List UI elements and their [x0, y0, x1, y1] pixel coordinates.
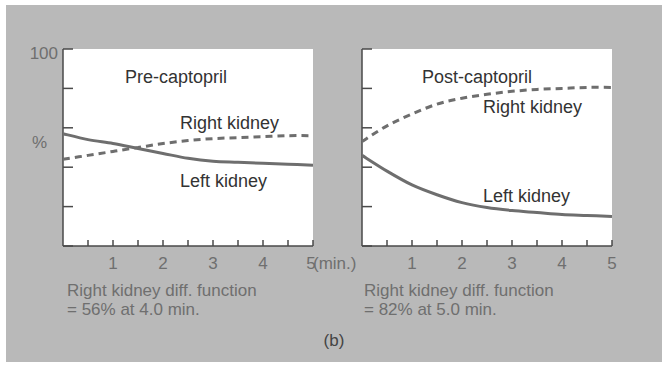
figure-background: Pre-captopril Right kidney Left kidney P… [6, 5, 662, 362]
panel-pre-captopril: Pre-captopril Right kidney Left kidney [63, 49, 313, 246]
left-kidney-label-post: Left kidney [483, 186, 570, 206]
x-tick-label: 1 [108, 254, 117, 273]
x-tick-label: 5 [607, 254, 616, 273]
figure-label: (b) [324, 331, 345, 350]
x-tick-label: 3 [208, 254, 217, 273]
panel-post-captopril: Post-captopril Right kidney Left kidney [362, 49, 612, 246]
y-axis-unit-label: % [32, 133, 47, 152]
y-axis-max-label: 100 [30, 44, 58, 63]
kidney-renogram-chart: Pre-captopril Right kidney Left kidney P… [6, 5, 662, 362]
x-tick-label: 1 [407, 254, 416, 273]
x-tick-label: 4 [258, 254, 267, 273]
caption-pre-line1: Right kidney diff. function [67, 281, 257, 300]
right-kidney-label-pre: Right kidney [180, 113, 279, 133]
caption-post-line2: = 82% at 5.0 min. [364, 300, 497, 319]
caption-pre-line2: = 56% at 4.0 min. [67, 300, 200, 319]
x-tick-label: 4 [557, 254, 566, 273]
left-kidney-label-pre: Left kidney [180, 171, 267, 191]
panel-title-post: Post-captopril [422, 67, 532, 87]
x-tick-label: 2 [457, 254, 466, 273]
x-axis-tick-labels: 1234512345 [108, 254, 616, 273]
x-tick-label: 3 [507, 254, 516, 273]
right-kidney-label-post: Right kidney [483, 97, 582, 117]
x-tick-label: 2 [158, 254, 167, 273]
caption-post-line1: Right kidney diff. function [364, 281, 554, 300]
panel-title-pre: Pre-captopril [125, 67, 227, 87]
x-axis-unit-label: (min.) [313, 254, 356, 273]
